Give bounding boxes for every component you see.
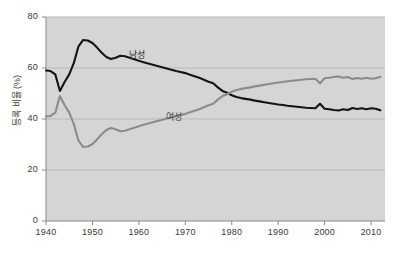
x-tick-label-1960: 1960: [119, 227, 159, 237]
tick-marks: [42, 17, 371, 225]
series-label-1: 여성: [166, 110, 182, 123]
y-tick-label-20: 20: [10, 164, 38, 174]
x-tick-label-1980: 1980: [212, 227, 252, 237]
series-label-0: 남성: [129, 48, 145, 61]
line-chart: 등록 비율 (%) 020406080 19401950196019701980…: [0, 0, 396, 255]
series-line-1: [46, 76, 380, 147]
y-tick-label-40: 40: [10, 113, 38, 123]
x-tick-label-1970: 1970: [165, 227, 205, 237]
chart-svg-layer: [0, 0, 396, 255]
x-tick-label-1990: 1990: [258, 227, 298, 237]
x-tick-label-2000: 2000: [305, 227, 345, 237]
gridlines: [46, 17, 385, 170]
data-series: [46, 40, 380, 147]
y-tick-label-0: 0: [10, 215, 38, 225]
x-tick-label-2010: 2010: [351, 227, 391, 237]
y-tick-label-80: 80: [10, 11, 38, 21]
y-tick-label-60: 60: [10, 62, 38, 72]
series-line-0: [46, 40, 380, 111]
x-tick-label-1940: 1940: [26, 227, 66, 237]
x-tick-label-1950: 1950: [72, 227, 112, 237]
